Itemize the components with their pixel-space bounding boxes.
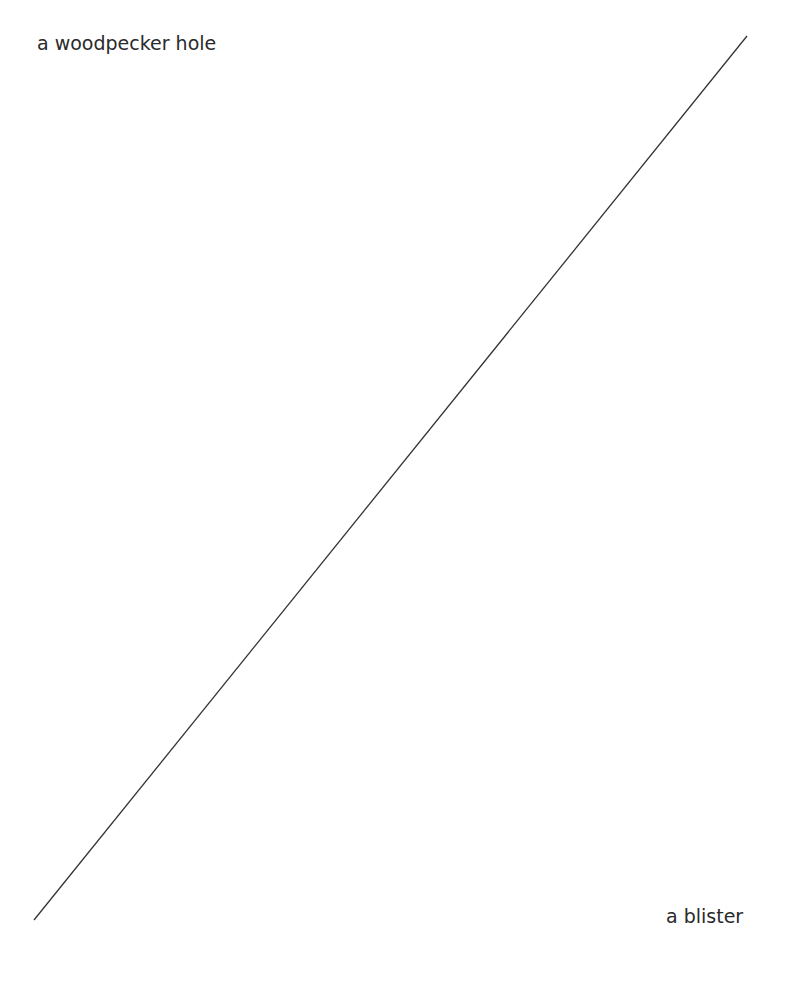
diagram-canvas: a woodpecker hole a blister [0,0,785,996]
bottom-right-label: a blister [666,905,743,927]
diagonal-line [0,0,785,996]
top-left-label: a woodpecker hole [37,32,216,54]
